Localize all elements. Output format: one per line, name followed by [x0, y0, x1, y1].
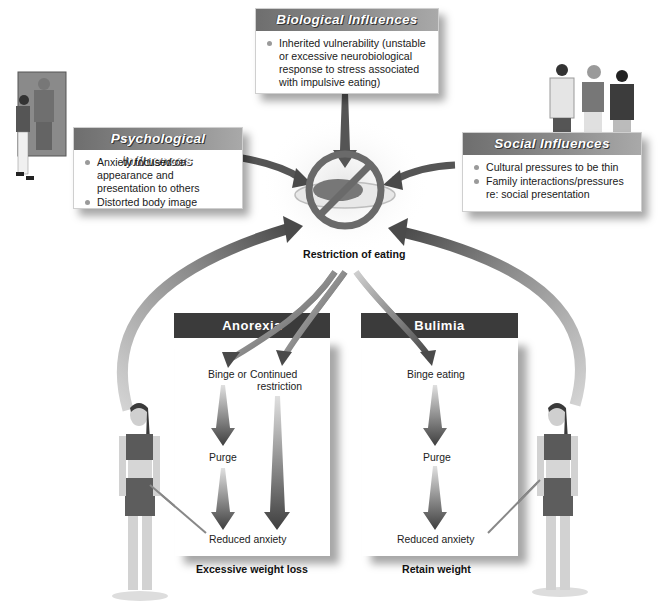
bulimia-outcome: Retain weight: [402, 563, 471, 575]
bulimia-purge: Purge: [423, 452, 451, 463]
biological-item: Inherited vulnerability (unstable or exc…: [266, 37, 430, 89]
anorexia-binge-or: Binge or: [208, 369, 247, 380]
center-label: Restriction of eating: [303, 248, 405, 260]
anorexia-restriction: restriction: [257, 381, 302, 392]
psychological-influences-list: Anxiety focused on appearance and presen…: [74, 150, 242, 216]
mirror-figure-illustration: [16, 72, 66, 180]
social-influences-box: Social Influences Cultural pressures to …: [462, 132, 642, 212]
anorexia-reduced-anxiety: Reduced anxiety: [209, 534, 286, 545]
anorexia-outcome: Excessive weight loss: [196, 563, 308, 575]
anorexia-purge: Purge: [209, 452, 237, 463]
psychological-influences-title: Psychological Influences: [74, 128, 242, 150]
woman-figure-right: [532, 403, 588, 597]
psychological-influences-box: Psychological Influences Anxiety focused…: [73, 127, 243, 209]
anorexia-continued: Continued: [250, 369, 297, 380]
social-group-illustration: [550, 64, 634, 132]
biological-influences-title: Biological Influences: [256, 9, 438, 31]
anorexia-title: Anorexia: [174, 313, 330, 338]
psychological-item: Anxiety focused on appearance and presen…: [84, 156, 234, 195]
bulimia-binge-eating: Binge eating: [407, 369, 465, 380]
biological-influences-list: Inherited vulnerability (unstable or exc…: [256, 31, 438, 96]
woman-figure-left: [112, 403, 168, 601]
social-item: Cultural pressures to be thin: [473, 161, 633, 174]
social-influences-list: Cultural pressures to be thin Family int…: [463, 155, 641, 208]
bulimia-reduced-anxiety: Reduced anxiety: [397, 534, 474, 545]
social-item: Family interactions/pressures re: social…: [473, 175, 633, 201]
bulimia-title: Bulimia: [361, 313, 518, 338]
biological-influences-box: Biological Influences Inherited vulnerab…: [255, 8, 439, 94]
social-influences-title: Social Influences: [463, 133, 641, 155]
psychological-item: Distorted body image: [84, 196, 234, 209]
